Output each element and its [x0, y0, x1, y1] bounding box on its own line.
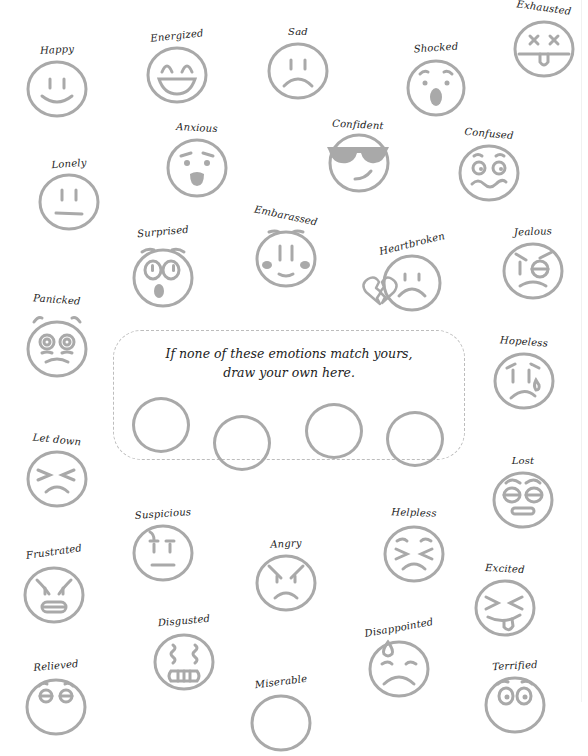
- emotion-label: Panicked: [17, 291, 98, 308]
- draw-prompt-line1: If none of these emotions match yours,: [114, 345, 464, 362]
- x-eyes-tongue-face-icon: [513, 20, 575, 78]
- neutral-face-icon: [38, 173, 100, 231]
- emotion-label: Exhausted: [504, 0, 585, 19]
- angry-face-icon: [255, 554, 317, 612]
- page-edge: [581, 0, 582, 702]
- rolling-eyes-face-icon: [492, 471, 554, 529]
- emotion-panicked[interactable]: Panicked: [17, 294, 97, 374]
- emotion-label: Surprised: [123, 223, 204, 241]
- confused-face-icon: [458, 144, 520, 202]
- emotion-label: Embarassed: [246, 202, 327, 229]
- blank-face-circle-3[interactable]: [305, 403, 363, 459]
- emotion-label: Frustrated: [14, 540, 95, 562]
- terrified-face-icon: [484, 676, 546, 734]
- emotion-label: Confused: [449, 125, 530, 143]
- emotion-label: Confident: [318, 117, 398, 132]
- emotion-disappointed[interactable]: Disappointed: [359, 622, 439, 702]
- emotion-label: Let down: [17, 430, 98, 449]
- nauseated-face-icon: [153, 633, 215, 691]
- frowning-face-icon: [267, 42, 329, 100]
- emotion-suspicious[interactable]: Suspicious: [123, 508, 203, 588]
- emotion-label: Disgusted: [144, 612, 225, 630]
- emotion-label: Disappointed: [359, 615, 440, 640]
- jealous-face-icon: [502, 242, 564, 300]
- emotion-label: Jealous: [493, 225, 573, 239]
- emotion-heartbroken[interactable]: Heartbroken: [366, 238, 446, 318]
- emotion-label: Miserable: [241, 671, 322, 692]
- emotion-label: Lost: [483, 455, 563, 466]
- draw-your-own-box[interactable]: If none of these emotions match yours, d…: [113, 330, 465, 460]
- emotion-surprised[interactable]: Surprised: [123, 226, 203, 306]
- emotion-excited[interactable]: Excited: [465, 563, 545, 643]
- emotion-label: Terrified: [475, 658, 555, 673]
- emotion-embarassed[interactable]: Embarassed: [246, 210, 326, 290]
- sunglasses-face-icon: [325, 133, 391, 193]
- emotion-angry[interactable]: Angry: [246, 538, 326, 618]
- emotion-jealous[interactable]: Jealous: [493, 226, 573, 306]
- emotion-exhausted[interactable]: Exhausted: [504, 2, 584, 82]
- emotion-confident[interactable]: Confident: [318, 119, 398, 199]
- blank-face-circle-4[interactable]: [386, 411, 444, 467]
- emotion-label: Helpless: [374, 506, 454, 520]
- emotion-label: Excited: [465, 561, 545, 576]
- emotion-terrified[interactable]: Terrified: [475, 660, 555, 740]
- grinning-face-icon: [146, 46, 208, 104]
- crying-face-icon: [493, 352, 555, 410]
- blank-face-circle-1[interactable]: [132, 397, 190, 453]
- emotion-label: Lonely: [29, 155, 110, 172]
- open-mouth-face-icon: [406, 59, 466, 117]
- surprised-face-icon: [132, 246, 194, 306]
- suspicious-face-icon: [132, 524, 194, 582]
- grimacing-face-icon: [23, 566, 85, 624]
- emotion-lost[interactable]: Lost: [483, 455, 563, 535]
- emotion-anxious[interactable]: Anxious: [157, 122, 237, 202]
- emotion-shocked[interactable]: Shocked: [396, 42, 476, 122]
- emotion-energized[interactable]: Energized: [137, 30, 217, 110]
- emotion-label: Hopeless: [484, 333, 565, 350]
- emotion-hopeless[interactable]: Hopeless: [484, 336, 564, 416]
- smiling-face-icon: [26, 60, 88, 118]
- panicked-face-icon: [26, 314, 88, 376]
- emotion-lonely[interactable]: Lonely: [29, 158, 109, 238]
- broken-heart-icon: [362, 276, 398, 306]
- emotion-sad[interactable]: Sad: [258, 26, 338, 106]
- miserable-face-icon: [250, 694, 312, 752]
- persevering-face-icon: [383, 525, 445, 583]
- emotion-let-down[interactable]: Let down: [17, 434, 97, 514]
- squinting-tongue-face-icon: [474, 579, 536, 637]
- relieved-face-icon: [25, 678, 87, 736]
- emotion-helpless[interactable]: Helpless: [374, 507, 454, 587]
- emotion-frustrated[interactable]: Frustrated: [14, 546, 94, 626]
- emotion-label: Angry: [246, 536, 326, 551]
- emotion-label: Anxious: [157, 120, 237, 135]
- emotion-miserable[interactable]: Miserable: [241, 676, 321, 756]
- emotion-disgusted[interactable]: Disgusted: [144, 615, 224, 695]
- squinting-frown-face-icon: [26, 450, 88, 508]
- sweat-frown-face-icon: [368, 640, 430, 698]
- anxious-face-icon: [166, 138, 228, 198]
- emotion-happy[interactable]: Happy: [17, 44, 97, 124]
- emotion-label: Happy: [17, 42, 97, 57]
- emotion-label: Sad: [258, 26, 338, 37]
- blank-face-circle-2[interactable]: [213, 415, 271, 471]
- emotion-relieved[interactable]: Relieved: [16, 660, 96, 740]
- emotion-label: Shocked: [396, 39, 477, 56]
- emotion-label: Suspicious: [123, 505, 204, 522]
- emotion-label: Energized: [137, 26, 218, 45]
- draw-prompt-line2: draw your own here.: [114, 364, 464, 381]
- emotion-confused[interactable]: Confused: [449, 128, 529, 208]
- emotion-label: Relieved: [16, 657, 97, 675]
- blushing-face-icon: [255, 230, 317, 288]
